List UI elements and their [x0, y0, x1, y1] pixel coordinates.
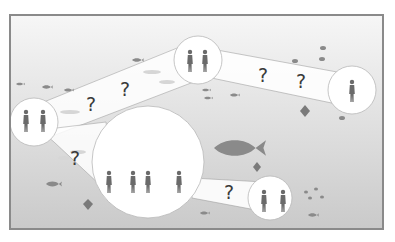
question-mark: ? [224, 181, 234, 203]
underwater-scene: ? ? ? ? ? ? [11, 16, 382, 228]
bubble-bottom-right [248, 176, 292, 220]
question-mark: ? [120, 78, 130, 100]
bubble-left [11, 98, 58, 146]
question-mark: ? [70, 147, 80, 169]
question-mark: ? [86, 93, 96, 115]
bubble-right [328, 66, 376, 114]
question-mark: ? [296, 70, 306, 92]
bubble-big-center [92, 106, 204, 218]
question-mark: ? [258, 64, 268, 86]
bubble-top-center [174, 36, 222, 84]
illustration-frame: ? ? ? ? ? ? [9, 14, 384, 230]
